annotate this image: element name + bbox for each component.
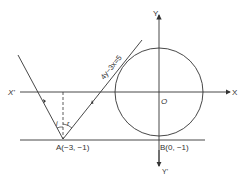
reflected-ray (63, 40, 142, 139)
x-neg-label: X' (7, 88, 15, 97)
origin-label: O (161, 97, 167, 106)
y-neg-label: Y' (162, 168, 168, 175)
point-b-label: B(0, −1) (160, 143, 189, 152)
angle-i-label: i (56, 120, 58, 127)
point-a-label: A(−3, −1) (56, 143, 90, 152)
x-label: X (232, 88, 238, 97)
reflection-diagram: Y Y' X X' O A(−3, −1) B(0, −1) i r 4y−3x… (0, 0, 239, 176)
angle-i-arc (57, 127, 63, 128)
y-label: Y (153, 9, 159, 18)
